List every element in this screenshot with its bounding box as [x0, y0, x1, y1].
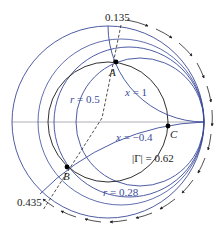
- x-neg-0-4-label: x = −0.4: [115, 131, 153, 143]
- gamma-label: |Γ| = 0.62: [132, 152, 174, 164]
- x-1-label: x = 1: [124, 86, 147, 98]
- point-a-dot: [114, 60, 119, 65]
- wtg-bottom-label: 0.435: [17, 196, 42, 208]
- r-0-28-label: r = 0.28: [103, 186, 139, 198]
- smith-chart: 0.135 0.435 A B C r = 0.5 x = 1 x = −0.4…: [0, 0, 221, 239]
- wtg-top-label: 0.135: [105, 11, 130, 23]
- point-c-label: C: [170, 128, 178, 140]
- point-a-label: A: [108, 66, 116, 78]
- x-1-arc: [108, 26, 204, 122]
- point-b-label: B: [63, 170, 70, 182]
- point-b-dot: [65, 165, 70, 170]
- r-0-5-label: r = 0.5: [70, 93, 100, 105]
